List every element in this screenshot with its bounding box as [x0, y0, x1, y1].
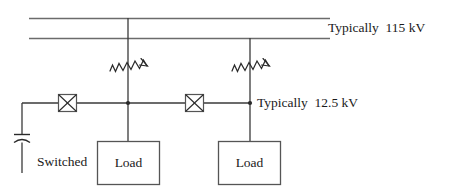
switched-caps-label: Switched caps	[37, 124, 87, 196]
junction-node-icon-1	[126, 101, 130, 105]
one-line-diagram: Typically 115 kV Typically 12.5 kV Switc…	[0, 0, 450, 196]
switched-capacitor-branch	[14, 103, 30, 173]
junction-node-icon-2	[248, 101, 252, 105]
circuit-breaker-x-box-icon-2[interactable]	[186, 95, 204, 112]
load-box-1-label: Load	[97, 155, 160, 171]
transformer-zigzag-icon-2	[232, 59, 270, 72]
mv-voltage-label: Typically 12.5 kV	[257, 95, 358, 110]
transformer-zigzag-icon-1	[110, 59, 148, 72]
switched-caps-label-line1: Switched	[37, 154, 87, 169]
load-box-2-label: Load	[218, 155, 281, 171]
hv-voltage-label: Typically 115 kV	[328, 20, 425, 35]
capacitor-icon	[14, 135, 30, 143]
circuit-breaker-x-box-icon-1[interactable]	[59, 95, 77, 112]
